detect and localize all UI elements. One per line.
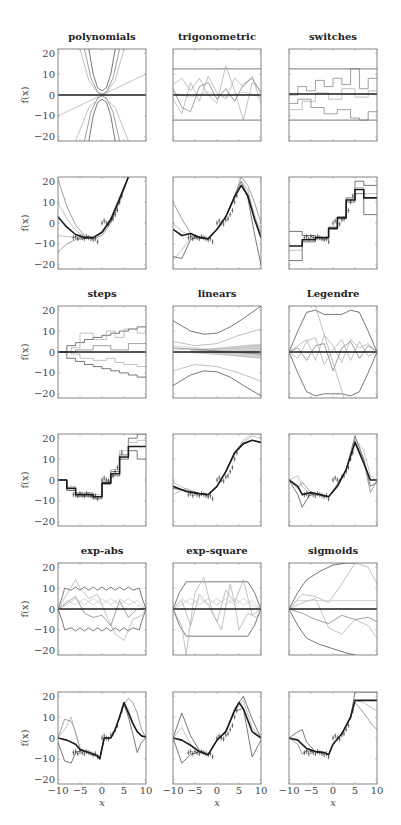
x-tick-label: 5 <box>236 785 242 796</box>
sample-curve <box>289 69 377 95</box>
panel-linears-prior: linears <box>173 288 261 398</box>
sample-curve <box>58 447 146 497</box>
curves <box>58 580 146 641</box>
panel-title: polynomials <box>68 31 136 42</box>
panel-title: steps <box>87 288 117 299</box>
y-tick-label: −20 <box>34 388 55 399</box>
panel-expabs-prior: exp-abs20100−10−20f(x) <box>19 545 146 656</box>
curves <box>173 177 261 265</box>
curves <box>289 181 377 260</box>
figure-canvas: polynomials20100−10−20f(x)trigonometrics… <box>0 0 401 825</box>
curves <box>173 696 261 763</box>
x-tick-label: −5 <box>304 785 319 796</box>
sample-curve <box>173 365 261 382</box>
panel-legendre-prior: Legendre <box>289 288 377 398</box>
y-axis-label: f(x) <box>19 86 30 103</box>
panel-linears-posterior <box>173 434 261 526</box>
y-axis-label: f(x) <box>19 600 30 617</box>
curves <box>58 434 146 501</box>
panel-legendre-posterior <box>289 434 377 526</box>
y-tick-label: 10 <box>42 454 55 465</box>
x-tick-label: 5 <box>121 785 127 796</box>
y-tick-label: 20 <box>42 691 55 702</box>
sample-curve <box>89 49 115 91</box>
panel-expsquare-posterior: −10−50510x <box>162 692 267 808</box>
panel-steps-posterior: 20100−10−20f(x) <box>19 433 146 528</box>
panel-steps-prior: steps20100−10−20f(x) <box>19 288 146 399</box>
sample-curve <box>58 177 128 238</box>
curves <box>289 436 377 507</box>
curves <box>173 306 261 396</box>
panel-switches-prior: switches <box>289 31 377 141</box>
panel-polynomials-posterior: 20100−10−20f(x) <box>19 176 146 271</box>
y-tick-label: 0 <box>49 604 55 615</box>
y-tick-label: −20 <box>34 131 55 142</box>
x-axis-label: x <box>99 797 105 808</box>
sample-curve <box>289 436 377 507</box>
sample-curve <box>173 696 261 755</box>
x-tick-label: −10 <box>162 785 183 796</box>
panel-expabs-posterior: 20100−10−20f(x)−10−50510x <box>19 691 152 808</box>
sample-curve <box>76 95 129 141</box>
y-tick-label: −10 <box>34 110 55 121</box>
y-tick-label: 20 <box>42 433 55 444</box>
y-tick-label: −20 <box>34 774 55 785</box>
curves <box>58 177 128 252</box>
x-tick-label: 10 <box>140 785 153 796</box>
sample-curve <box>289 609 355 655</box>
y-tick-label: 10 <box>42 326 55 337</box>
sample-curve <box>173 599 261 610</box>
y-tick-label: 0 <box>49 218 55 229</box>
y-axis-label: f(x) <box>19 343 30 360</box>
y-tick-label: 20 <box>42 176 55 187</box>
y-tick-label: 10 <box>42 197 55 208</box>
y-tick-label: −10 <box>34 238 55 249</box>
panel-trigonometric-posterior <box>173 177 261 269</box>
sample-curve <box>289 438 377 497</box>
sample-curve <box>89 99 115 141</box>
x-tick-label: −5 <box>73 785 88 796</box>
y-tick-label: −20 <box>34 259 55 270</box>
y-tick-label: 20 <box>42 305 55 316</box>
curves <box>58 49 146 141</box>
sample-curve <box>58 597 146 626</box>
x-tick-label: −10 <box>47 785 68 796</box>
y-tick-label: 20 <box>42 562 55 573</box>
y-axis-label: f(x) <box>19 214 30 231</box>
y-tick-label: 0 <box>49 475 55 486</box>
panel-title: sigmoids <box>308 545 358 556</box>
y-axis-label: f(x) <box>19 729 30 746</box>
sample-curve <box>289 703 377 755</box>
sample-curve <box>173 329 261 346</box>
curves <box>289 69 377 120</box>
y-tick-label: −10 <box>34 753 55 764</box>
x-tick-label: 0 <box>99 785 105 796</box>
sample-curve <box>58 703 146 759</box>
x-axis-label: x <box>214 797 220 808</box>
panel-trigonometric-prior: trigonometric <box>173 31 261 141</box>
sample-curve <box>58 705 146 764</box>
curves <box>173 66 261 120</box>
y-tick-label: −10 <box>34 624 55 635</box>
sample-curve <box>289 601 377 609</box>
curves <box>289 563 377 655</box>
y-tick-label: −20 <box>34 516 55 527</box>
panel-title: linears <box>198 288 237 299</box>
x-tick-label: −10 <box>278 785 299 796</box>
band <box>191 344 261 359</box>
sample-curve <box>173 703 261 755</box>
curves <box>58 327 146 377</box>
panel-sigmoids-posterior: −10−50510x <box>278 692 383 808</box>
axes-frame <box>289 49 377 141</box>
y-tick-label: 10 <box>42 69 55 80</box>
y-axis-label: f(x) <box>19 471 30 488</box>
sample-curve <box>173 306 261 334</box>
sample-curve <box>58 352 146 367</box>
x-tick-label: 0 <box>330 785 336 796</box>
curves <box>289 692 377 759</box>
x-tick-label: 5 <box>352 785 358 796</box>
curves <box>289 306 377 398</box>
x-tick-label: 0 <box>214 785 220 796</box>
panel-expsquare-prior: exp-square <box>173 545 261 655</box>
y-tick-label: 10 <box>42 712 55 723</box>
